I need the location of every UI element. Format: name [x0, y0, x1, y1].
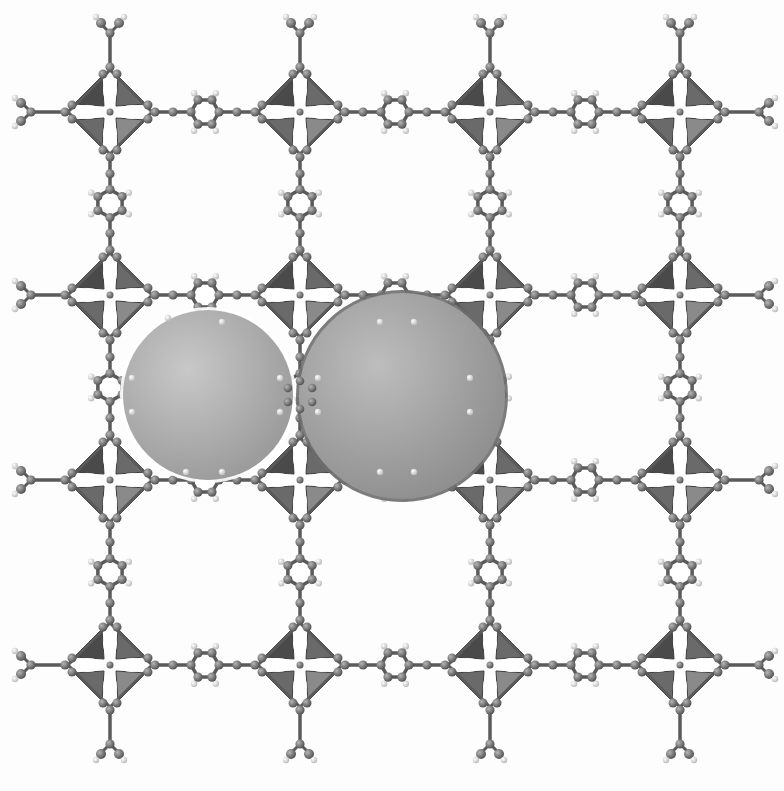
metal-cluster-node — [60, 62, 159, 161]
terminal-group — [93, 710, 127, 763]
metal-cluster-node — [630, 615, 729, 714]
terminal-group — [12, 95, 65, 129]
benzene-linker — [535, 90, 635, 134]
terminal-group — [663, 14, 697, 67]
metal-cluster-node — [440, 615, 539, 714]
pore-sphere — [296, 290, 508, 502]
metal-cluster-node — [60, 245, 159, 344]
terminal-group — [473, 14, 507, 67]
framework-lattice — [0, 0, 784, 791]
benzene-linker — [468, 525, 512, 620]
benzene-linker — [345, 90, 445, 134]
benzene-linker — [88, 157, 132, 250]
terminal-group — [725, 95, 778, 129]
terminal-group — [12, 278, 65, 312]
terminal-group — [93, 14, 127, 67]
benzene-linker — [88, 525, 132, 620]
benzene-linker — [535, 458, 635, 502]
metal-cluster-node — [60, 615, 159, 714]
benzene-linker — [658, 157, 702, 250]
benzene-linker — [278, 157, 322, 250]
terminal-group — [12, 463, 65, 497]
benzene-linker — [468, 157, 512, 250]
terminal-group — [725, 648, 778, 682]
metal-cluster-node — [250, 62, 349, 161]
benzene-linker — [535, 643, 635, 687]
terminal-group — [12, 648, 65, 682]
benzene-linker — [155, 90, 255, 134]
metal-cluster-node — [630, 62, 729, 161]
metal-cluster-node — [630, 430, 729, 529]
terminal-group — [283, 710, 317, 763]
metal-cluster-node — [250, 615, 349, 714]
benzene-linker — [155, 643, 255, 687]
benzene-linker — [658, 340, 702, 435]
benzene-linker — [345, 643, 445, 687]
terminal-group — [473, 710, 507, 763]
benzene-linker — [278, 525, 322, 620]
terminal-group — [283, 14, 317, 67]
terminal-group — [663, 710, 697, 763]
terminal-group — [725, 463, 778, 497]
metal-cluster-node — [440, 62, 539, 161]
mof-structure-figure — [0, 0, 784, 791]
metal-cluster-node — [630, 245, 729, 344]
pore-sphere — [120, 307, 296, 483]
benzene-linker — [535, 273, 635, 317]
benzene-linker — [658, 525, 702, 620]
terminal-group — [725, 278, 778, 312]
